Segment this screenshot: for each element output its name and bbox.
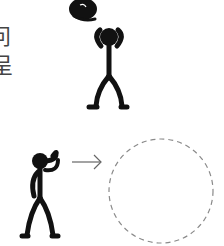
illustration [0,0,224,246]
arrow-right-icon [72,155,101,169]
scribble-icon [69,0,97,20]
stick-figure-bottom-icon [22,152,58,236]
stick-figure-top-icon [89,28,127,107]
dashed-circle [109,139,213,243]
